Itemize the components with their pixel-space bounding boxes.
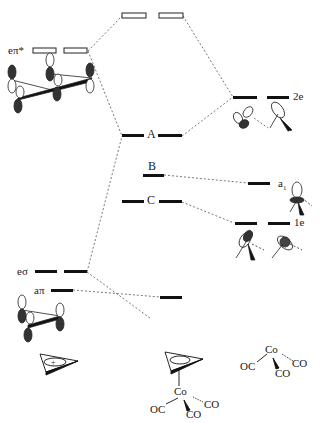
ring-plus-sign: + — [51, 357, 56, 368]
complex-ring-icon — [165, 352, 203, 411]
level-label-2e: 2e — [293, 91, 303, 102]
free-co-ligand-1: CO — [275, 368, 290, 379]
empty-levels — [33, 13, 183, 53]
level-label-C: C — [147, 195, 155, 206]
co-orbitals-1e — [236, 229, 302, 260]
level-label-a1: a1 — [278, 178, 286, 194]
a1-sub: 1 — [283, 184, 287, 192]
free-co-atom: Co — [265, 344, 278, 355]
mo-diagram — [0, 0, 320, 423]
complex-co-ligand-2: CO — [204, 399, 219, 410]
level-label-A: A — [147, 129, 156, 140]
level-label-epi-star: eπ* — [8, 45, 24, 56]
cyclopropenyl-ring-icon — [40, 354, 78, 375]
ring-orbitals-epi — [8, 53, 94, 113]
correlation-lines — [73, 16, 268, 318]
complex-co-atom: Co — [174, 386, 187, 397]
free-co-ligand-2: CO — [292, 358, 307, 369]
co-orbitals-2e — [232, 100, 292, 131]
level-label-1e: 1e — [294, 217, 304, 228]
co-orbitals-a1 — [290, 182, 312, 215]
complex-co-ligand-1: CO — [186, 409, 201, 420]
filled-levels — [35, 96, 290, 299]
ring-orbitals-api — [18, 295, 64, 342]
level-label-esigma: eσ — [17, 266, 28, 277]
complex-oc-ligand: OC — [150, 404, 165, 415]
free-oc-ligand: OC — [240, 361, 255, 372]
level-label-B: B — [148, 161, 156, 172]
level-label-api: aπ — [34, 285, 44, 296]
